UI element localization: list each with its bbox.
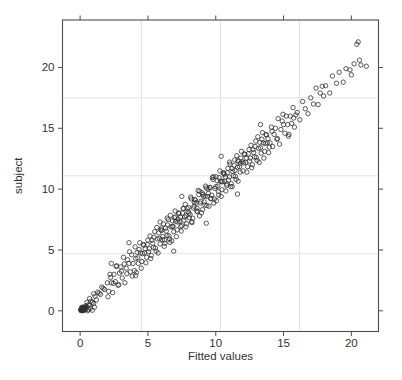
data-point	[252, 150, 256, 154]
data-point	[120, 276, 124, 280]
data-point	[334, 81, 338, 85]
data-point	[292, 125, 296, 129]
data-point	[303, 107, 307, 111]
data-point	[258, 122, 262, 126]
scatter-plot-figure: 0510152005101520 Fitted values subject	[0, 0, 402, 380]
data-point	[359, 63, 363, 67]
data-point	[328, 91, 332, 95]
data-point	[179, 224, 183, 228]
data-point	[316, 102, 320, 106]
y-tick-label: 10	[42, 183, 55, 195]
data-point	[352, 62, 356, 66]
data-point	[122, 262, 126, 266]
data-point	[348, 68, 352, 72]
data-point	[266, 150, 270, 154]
data-point	[224, 189, 228, 193]
data-point	[179, 229, 183, 233]
data-point	[204, 221, 208, 225]
x-tick-label: 5	[145, 337, 151, 349]
data-point	[314, 86, 318, 90]
data-point	[127, 241, 131, 245]
data-points	[79, 40, 369, 313]
data-point	[250, 163, 254, 167]
data-point	[330, 74, 334, 78]
data-point	[262, 156, 266, 160]
data-point	[96, 290, 100, 294]
data-point	[235, 192, 239, 196]
data-point	[212, 201, 216, 205]
data-point	[162, 244, 166, 248]
data-point	[184, 222, 188, 226]
data-point	[279, 127, 283, 131]
data-point	[151, 241, 155, 245]
data-point	[337, 70, 341, 74]
data-point	[250, 166, 254, 170]
data-point	[124, 266, 128, 270]
data-point	[123, 281, 127, 285]
data-point	[109, 261, 113, 265]
data-point	[133, 245, 137, 249]
data-point	[164, 229, 168, 233]
data-point	[186, 205, 190, 209]
data-point	[144, 261, 148, 265]
data-point	[174, 234, 178, 238]
y-tick-label: 5	[48, 244, 54, 256]
data-point	[306, 112, 310, 116]
plot-canvas: 0510152005101520 Fitted values subject	[0, 0, 402, 380]
data-point	[256, 135, 260, 139]
y-tick-label: 15	[42, 122, 55, 134]
data-point	[341, 80, 345, 84]
data-point	[300, 99, 304, 103]
data-point	[229, 182, 233, 186]
data-point	[180, 194, 184, 198]
data-point	[108, 275, 112, 279]
data-point	[111, 290, 115, 294]
y-tick-label: 0	[48, 305, 54, 317]
data-point	[349, 73, 353, 77]
data-point	[238, 170, 242, 174]
x-tick-label: 0	[77, 337, 83, 349]
y-axis-title: subject	[12, 157, 24, 194]
data-point	[121, 255, 125, 259]
data-point	[291, 105, 295, 109]
data-point	[311, 102, 315, 106]
data-point	[184, 225, 188, 229]
data-point	[276, 116, 280, 120]
y-tick-label: 20	[42, 61, 55, 73]
data-point	[277, 142, 281, 146]
x-axis-title: Fitted values	[188, 350, 253, 362]
data-point	[245, 170, 249, 174]
data-point	[364, 64, 368, 68]
x-tick-label: 20	[345, 337, 358, 349]
x-tick-label: 10	[209, 337, 222, 349]
x-tick-label: 15	[277, 337, 290, 349]
data-point	[106, 295, 110, 299]
data-point	[172, 249, 176, 253]
data-point	[357, 58, 361, 62]
data-point	[158, 242, 162, 246]
data-point	[219, 154, 223, 158]
